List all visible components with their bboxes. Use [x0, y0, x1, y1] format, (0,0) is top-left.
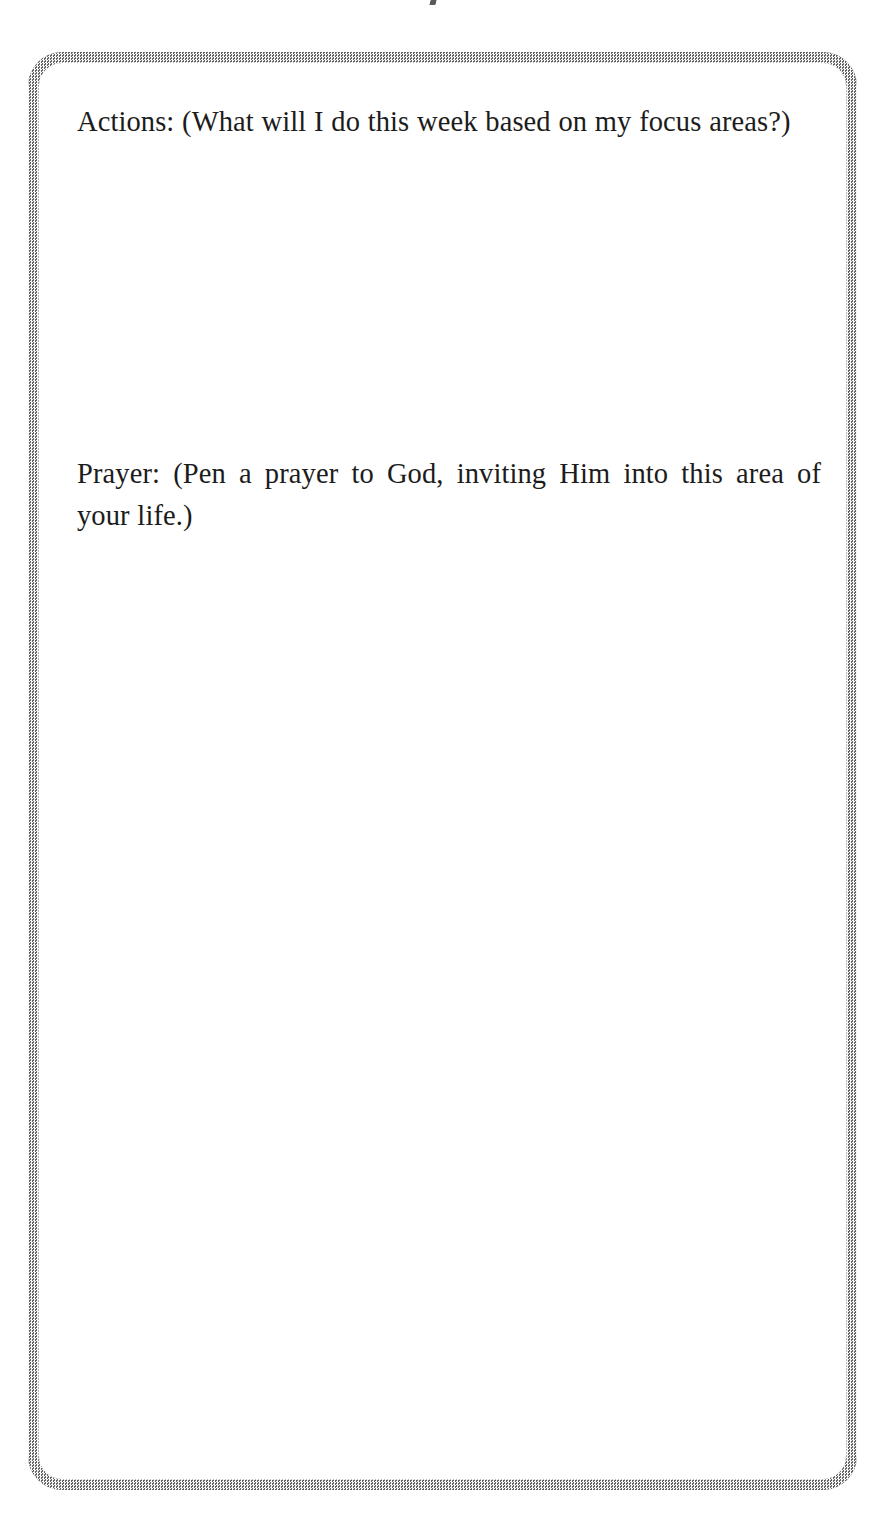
scan-artifact-mark — [429, 0, 436, 5]
actions-response-area[interactable] — [77, 155, 821, 445]
prayer-prompt-text: Prayer: (Pen a prayer to God, inviting H… — [77, 453, 821, 537]
prayer-response-area[interactable] — [77, 541, 821, 1476]
worksheet-box: Actions: (What will I do this week based… — [28, 52, 857, 1490]
page-canvas: Actions: (What will I do this week based… — [0, 0, 885, 1538]
actions-prompt-text: Actions: (What will I do this week based… — [77, 101, 821, 143]
worksheet-content: Actions: (What will I do this week based… — [39, 63, 846, 1479]
